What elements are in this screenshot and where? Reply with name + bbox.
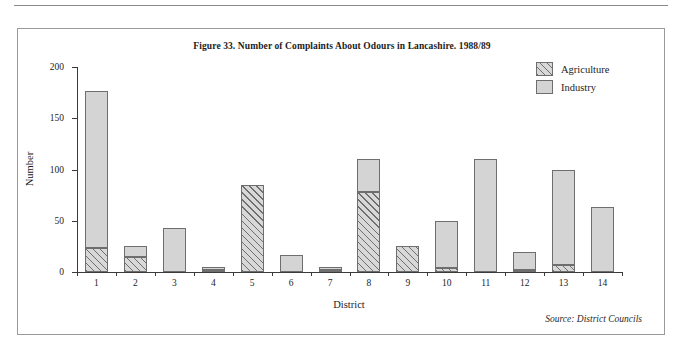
bar-district-10: [435, 221, 458, 272]
bar-district-3: [163, 228, 186, 272]
figure-frame: Figure 33. Number of Complaints About Od…: [17, 28, 665, 335]
bar-district-9: [396, 246, 419, 272]
x-tick-5: [272, 272, 273, 276]
y-axis-title: Number: [24, 152, 35, 186]
legend-item-agriculture: Agriculture: [536, 62, 609, 76]
x-tick-10: [466, 272, 467, 276]
y-tick-100: 100: [72, 170, 77, 171]
bar-segment-industry-8: [357, 159, 380, 192]
y-tick-200: 200: [72, 67, 77, 68]
y-tick-label-100: 100: [50, 165, 64, 175]
bar-segment-industry-4: [202, 267, 225, 270]
bar-segment-industry-7: [319, 267, 342, 270]
bar-segment-agriculture-1: [85, 248, 108, 272]
bar-segment-industry-14: [591, 207, 614, 272]
page-title: Figure 33. Number of Complaints About Od…: [18, 41, 666, 51]
x-tick-3: [194, 272, 195, 276]
page-top-rule: [14, 5, 668, 6]
x-tick-6: [311, 272, 312, 276]
x-tick-label-3: 3: [172, 278, 177, 288]
x-tick-label-4: 4: [211, 278, 216, 288]
y-tick-label-0: 0: [59, 267, 64, 277]
bar-segment-agriculture-8: [357, 192, 380, 272]
x-tick-8: [388, 272, 389, 276]
bar-segment-industry-1: [85, 91, 108, 249]
x-tick-label-5: 5: [250, 278, 255, 288]
x-tick-11: [505, 272, 506, 276]
x-tick-14: [622, 272, 623, 276]
bar-district-8: [357, 159, 380, 272]
x-tick-label-1: 1: [94, 278, 99, 288]
y-tick-50: 50: [72, 221, 77, 222]
bar-segment-agriculture-10: [435, 268, 458, 272]
y-tick-label-200: 200: [50, 62, 64, 72]
bar-segment-agriculture-4: [202, 270, 225, 272]
x-tick-label-14: 14: [598, 278, 608, 288]
x-tick-label-6: 6: [289, 278, 294, 288]
chart-legend: Agriculture Industry: [536, 62, 609, 98]
x-tick-label-13: 13: [559, 278, 569, 288]
bar-segment-agriculture-7: [319, 270, 342, 272]
bar-segment-industry-3: [163, 228, 186, 272]
bar-district-2: [124, 246, 147, 272]
hatched-swatch-icon: [536, 62, 553, 76]
x-tick-label-8: 8: [367, 278, 372, 288]
x-tick-9: [427, 272, 428, 276]
x-tick-label-2: 2: [133, 278, 138, 288]
x-tick-12: [544, 272, 545, 276]
bar-segment-agriculture-12: [513, 270, 536, 272]
bar-segment-agriculture-9: [396, 246, 419, 272]
legend-label-industry: Industry: [561, 82, 596, 93]
x-tick-2: [155, 272, 156, 276]
x-tick-4: [233, 272, 234, 276]
bar-district-13: [552, 170, 575, 273]
x-tick-0: [77, 272, 78, 276]
bar-segment-industry-6: [280, 255, 303, 272]
bar-segment-agriculture-5: [241, 185, 264, 272]
bar-district-7: [319, 267, 342, 272]
x-tick-label-7: 7: [328, 278, 333, 288]
bar-district-6: [280, 255, 303, 272]
x-axis-title: District: [333, 299, 365, 310]
legend-item-industry: Industry: [536, 80, 609, 94]
bar-segment-industry-11: [474, 159, 497, 272]
source-note: Source: District Councils: [545, 314, 642, 324]
legend-label-agriculture: Agriculture: [561, 64, 609, 75]
bar-district-1: [85, 91, 108, 272]
x-tick-1: [116, 272, 117, 276]
y-tick-150: 150: [72, 118, 77, 119]
bar-district-5: [241, 185, 264, 272]
bar-district-4: [202, 267, 225, 272]
bar-district-12: [513, 252, 536, 273]
bar-district-11: [474, 159, 497, 272]
x-tick-label-10: 10: [442, 278, 452, 288]
bar-segment-industry-12: [513, 252, 536, 270]
x-tick-13: [583, 272, 584, 276]
y-tick-label-50: 50: [55, 216, 65, 226]
bar-segment-agriculture-13: [552, 265, 575, 272]
bar-segment-industry-2: [124, 246, 147, 256]
x-tick-label-12: 12: [520, 278, 530, 288]
y-axis-line: [77, 67, 78, 272]
figure-page: Figure 33. Number of Complaints About Od…: [0, 0, 682, 350]
x-tick-label-9: 9: [406, 278, 411, 288]
y-tick-label-150: 150: [50, 113, 64, 123]
bar-segment-industry-10: [435, 221, 458, 268]
x-tick-7: [350, 272, 351, 276]
x-tick-label-11: 11: [481, 278, 490, 288]
bar-segment-agriculture-2: [124, 257, 147, 272]
bar-segment-industry-13: [552, 170, 575, 265]
bar-district-14: [591, 207, 614, 272]
solid-swatch-icon: [536, 80, 553, 94]
